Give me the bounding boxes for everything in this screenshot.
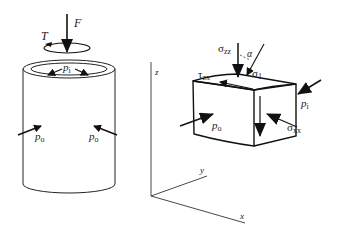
x-axis	[151, 196, 245, 223]
tau-zx-label: τzx	[198, 68, 210, 82]
z-axis-label: z	[154, 67, 159, 77]
po-arrow-right	[94, 126, 117, 135]
pi-label: pi	[300, 97, 310, 111]
element-front-face	[193, 81, 254, 146]
y-axis-label: y	[199, 165, 204, 175]
external-pressure-left-label: po	[34, 130, 45, 144]
sigma-1-label: σ1	[252, 67, 262, 81]
cylinder-figure: F T pi po po	[18, 14, 117, 193]
po-arrow	[180, 114, 213, 126]
stress-element: σzz α σ1 τzx pi po σxx	[180, 42, 321, 146]
force-label: F	[73, 16, 82, 30]
x-axis-label: x	[239, 211, 244, 221]
sigma-xx-label: σxx	[287, 121, 301, 135]
pi-arrow	[298, 80, 321, 94]
mechanics-diagram: F T pi po po z y x	[0, 0, 338, 238]
po-label: po	[211, 119, 222, 133]
torque-label: T	[41, 29, 49, 43]
y-axis	[151, 176, 207, 196]
external-pressure-right-label: po	[88, 130, 99, 144]
alpha-label: α	[247, 48, 253, 59]
cylinder-bottom-edge	[23, 184, 115, 193]
pi-arrow-right	[75, 69, 88, 75]
sigma-zz-label: σzz	[218, 42, 231, 56]
